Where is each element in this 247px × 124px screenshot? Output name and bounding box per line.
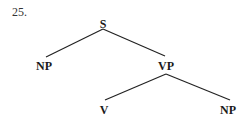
edge-vp-v — [105, 74, 166, 100]
node-vp: VP — [158, 60, 174, 72]
node-v: V — [100, 104, 109, 116]
node-s: S — [100, 18, 107, 30]
node-np-object: NP — [220, 104, 236, 116]
edge-vp-np — [166, 74, 230, 100]
edge-s-vp — [103, 29, 165, 56]
node-np-subject: NP — [36, 60, 52, 72]
edge-s-np — [46, 29, 103, 57]
